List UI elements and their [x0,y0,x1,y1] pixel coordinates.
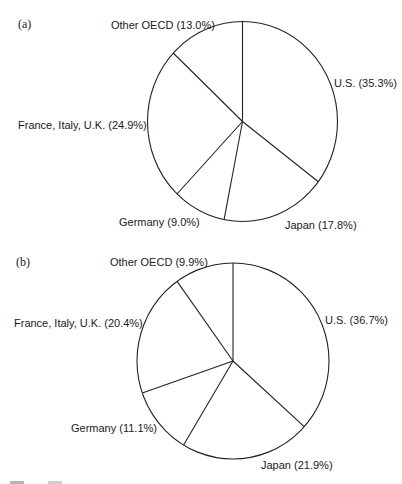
slice-label-japan-a: Japan (17.8%) [285,219,357,231]
figure: (a) U.S. (35.3%) Japan (17.8%) Germany (… [0,0,402,484]
slice-label-france-italy-uk-b: France, Italy, U.K. (20.4%) [14,317,143,329]
slice-label-us-b: U.S. (36.7%) [325,314,388,326]
slice-label-us-a: U.S. (35.3%) [334,77,397,89]
slice-label-germany-a: Germany (9.0%) [119,216,200,228]
pie-chart-b: (b) U.S. (36.7%) Japan (21.9%) Germany (… [14,255,388,471]
slice-label-japan-b: Japan (21.9%) [261,459,333,471]
slice-label-other-oecd-b: Other OECD (9.9%) [110,256,208,268]
panel-label-a: (a) [18,17,31,31]
pie-chart-a: (a) U.S. (35.3%) Japan (17.8%) Germany (… [18,17,397,231]
panel-label-b: (b) [16,255,30,269]
slice-label-other-oecd-a: Other OECD (13.0%) [111,19,215,31]
slice-label-germany-b: Germany (11.1%) [71,422,157,434]
slice-label-france-italy-uk-a: France, Italy, U.K. (24.9%) [18,119,147,131]
